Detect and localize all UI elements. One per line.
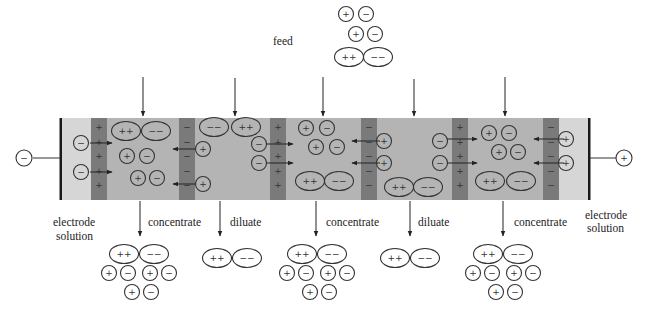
- membrane-fixed-charge: +: [274, 137, 282, 147]
- svg-text:++: ++: [302, 176, 317, 186]
- feed-arrows: [143, 77, 505, 116]
- svg-text:−: −: [255, 139, 263, 149]
- anion-icon: −: [508, 285, 523, 300]
- svg-text:+: +: [199, 179, 207, 189]
- cation-icon: +: [321, 266, 336, 281]
- divalent-cation-icon: ++: [110, 245, 139, 264]
- anion-icon: −: [162, 266, 177, 281]
- anion-icon: −: [526, 266, 541, 281]
- svg-text:+: +: [324, 268, 332, 278]
- cation-icon: +: [125, 285, 140, 300]
- svg-text:−−: −−: [239, 253, 254, 263]
- svg-text:−: −: [505, 128, 513, 138]
- membrane-fixed-charge: +: [456, 122, 464, 132]
- svg-text:−: −: [371, 29, 379, 39]
- svg-text:++: ++: [482, 176, 497, 186]
- membrane-fixed-charge: −: [183, 137, 191, 147]
- cation-icon: +: [489, 285, 504, 300]
- svg-text:−: −: [165, 268, 173, 278]
- membrane-fixed-charge: −: [365, 122, 373, 132]
- svg-text:−: −: [124, 268, 132, 278]
- svg-text:−−: −−: [510, 249, 525, 259]
- anode-terminal: +: [590, 150, 632, 166]
- svg-text:++: ++: [118, 126, 133, 136]
- membrane-fixed-charge: −: [183, 151, 191, 161]
- svg-text:−−: −−: [417, 253, 432, 263]
- svg-text:−−: −−: [331, 176, 346, 186]
- membrane-fixed-charge: +: [95, 122, 103, 132]
- cation-icon: +: [466, 266, 481, 281]
- membrane-fixed-charge: +: [274, 166, 282, 176]
- membrane-fixed-charge: +: [95, 166, 103, 176]
- anode-symbol: +: [620, 153, 628, 163]
- svg-text:−: −: [529, 268, 537, 278]
- divalent-cation-icon: ++: [288, 245, 317, 264]
- feed-label: feed: [273, 35, 293, 47]
- membrane-fixed-charge: +: [274, 151, 282, 161]
- membrane-fixed-charge: −: [365, 151, 373, 161]
- svg-text:+: +: [352, 29, 360, 39]
- anion-icon: −: [485, 266, 500, 281]
- svg-text:++: ++: [480, 249, 495, 259]
- divalent-anion-icon: −−: [233, 249, 262, 268]
- svg-text:−−: −−: [206, 122, 221, 132]
- anion-icon: −: [322, 285, 337, 300]
- svg-text:−: −: [436, 136, 444, 146]
- electrode-solution-label-left-2: solution: [56, 230, 93, 242]
- svg-text:+: +: [492, 287, 500, 297]
- svg-text:++: ++: [294, 249, 309, 259]
- membrane-fixed-charge: +: [95, 137, 103, 147]
- divalent-anion-icon: −−: [504, 245, 533, 264]
- svg-text:+: +: [485, 128, 493, 138]
- svg-text:+: +: [199, 144, 207, 154]
- svg-text:−−: −−: [370, 52, 385, 62]
- membrane-fixed-charge: −: [547, 151, 555, 161]
- electrode-solution-label-left-1: electrode: [53, 216, 95, 228]
- svg-text:+: +: [306, 287, 314, 297]
- svg-text:+: +: [105, 268, 113, 278]
- svg-text:+: +: [469, 268, 477, 278]
- anion-icon: −: [340, 266, 355, 281]
- cation-icon: +: [349, 27, 364, 42]
- concentrate-label-1: concentrate: [148, 216, 201, 228]
- svg-text:−−: −−: [148, 126, 163, 136]
- svg-text:+: +: [342, 9, 350, 19]
- divalent-cation-icon: ++: [381, 249, 410, 268]
- membrane-fixed-charge: −: [183, 166, 191, 176]
- divalent-anion-icon: −−: [411, 249, 440, 268]
- membrane-fixed-charge: −: [547, 122, 555, 132]
- svg-text:−: −: [362, 9, 370, 19]
- svg-text:−: −: [302, 268, 310, 278]
- anion-icon: −: [144, 285, 159, 300]
- concentrate-label-2: concentrate: [326, 216, 379, 228]
- svg-text:++: ++: [391, 182, 406, 192]
- electrode-plate-left: [60, 118, 63, 200]
- electrode-plate-right: [588, 118, 591, 200]
- diluate-label-2: diluate: [418, 216, 449, 228]
- svg-text:+: +: [123, 151, 131, 161]
- svg-text:−: −: [323, 123, 331, 133]
- divalent-anion-icon: −−: [364, 48, 393, 67]
- divalent-cation-icon: ++: [335, 48, 364, 67]
- cation-icon: +: [303, 285, 318, 300]
- svg-text:+: +: [562, 134, 570, 144]
- svg-text:+: +: [302, 123, 310, 133]
- svg-text:+: +: [146, 268, 154, 278]
- membrane-fixed-charge: −: [547, 180, 555, 190]
- membrane-fixed-charge: +: [456, 166, 464, 176]
- cation-icon: +: [280, 266, 295, 281]
- svg-text:−: −: [511, 287, 519, 297]
- svg-text:−: −: [255, 158, 263, 168]
- electrode-zone-left: [61, 118, 91, 200]
- concentrate-label-3: concentrate: [514, 216, 567, 228]
- cation-icon: +: [102, 266, 117, 281]
- svg-text:+: +: [128, 287, 136, 297]
- electrodialysis-diagram: +++++−−−−−+++++−−−−−+++++−−−−− − + feed …: [0, 0, 646, 317]
- cathode-symbol: −: [20, 153, 28, 163]
- membrane-fixed-charge: −: [365, 180, 373, 190]
- cation-icon: +: [339, 7, 354, 22]
- divalent-anion-icon: −−: [318, 245, 347, 264]
- svg-text:++: ++: [116, 249, 131, 259]
- svg-text:+: +: [495, 147, 503, 157]
- svg-text:−: −: [147, 287, 155, 297]
